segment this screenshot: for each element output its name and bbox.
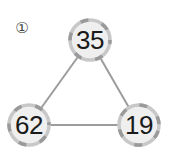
node-value-top: 35 [70,20,110,60]
node-value-bottom-left: 62 [9,105,49,145]
node-value-bottom-right: 19 [119,105,159,145]
problem-number: ① [12,18,32,38]
